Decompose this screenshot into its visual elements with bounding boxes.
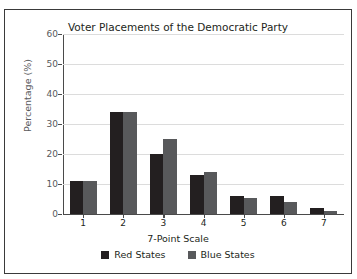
x-axis-tick-mark	[244, 214, 245, 218]
bar-group	[310, 34, 337, 214]
y-axis-tick-mark	[58, 124, 62, 125]
x-axis-tick-label: 6	[281, 218, 287, 228]
x-axis-tick-label: 5	[241, 218, 247, 228]
y-axis-tick-label: 60	[47, 29, 58, 39]
y-axis-tick-mark	[58, 34, 62, 35]
plot-area	[63, 34, 344, 214]
x-axis-tick-mark	[163, 214, 164, 218]
bar-blue-states-7[interactable]	[324, 211, 338, 214]
y-axis-tick-mark	[58, 64, 62, 65]
legend-label: Blue States	[201, 249, 255, 260]
x-axis-tick-mark	[284, 214, 285, 218]
y-axis-tick-mark	[58, 154, 62, 155]
bar-red-states-1[interactable]	[70, 181, 84, 214]
legend-label: Red States	[114, 249, 165, 260]
bar-red-states-4[interactable]	[190, 175, 204, 214]
bar-blue-states-6[interactable]	[284, 202, 298, 214]
y-axis-tick-mark	[58, 214, 62, 215]
x-axis-tick-label: 1	[80, 218, 86, 228]
bar-blue-states-5[interactable]	[244, 198, 258, 215]
figure-frame: Voter Placements of the Democratic Party…	[4, 9, 352, 274]
bar-group	[270, 34, 297, 214]
x-axis-tick-label: 2	[120, 218, 126, 228]
bar-group	[110, 34, 137, 214]
bar-red-states-2[interactable]	[110, 112, 124, 214]
y-axis-tick-label: 30	[47, 119, 58, 129]
bar-group	[190, 34, 217, 214]
y-axis-tick-labels: 0102030405060	[33, 34, 58, 214]
x-axis-title: 7-Point Scale	[5, 233, 351, 244]
x-axis-tick-mark	[204, 214, 205, 218]
bar-group	[70, 34, 97, 214]
bar-red-states-5[interactable]	[230, 196, 244, 214]
bar-blue-states-3[interactable]	[163, 139, 177, 214]
x-axis-tick-label: 7	[321, 218, 327, 228]
x-axis-tick-mark	[123, 214, 124, 218]
y-axis-title: Percentage (%)	[22, 36, 33, 156]
y-axis-tick-mark	[58, 184, 62, 185]
legend-item-red-states[interactable]: Red States	[101, 249, 165, 260]
x-axis-tick-mark	[324, 214, 325, 218]
y-axis-tick-mark	[58, 94, 62, 95]
bar-blue-states-1[interactable]	[83, 181, 97, 214]
bar-group	[150, 34, 177, 214]
legend-item-blue-states[interactable]: Blue States	[188, 249, 255, 260]
bar-red-states-3[interactable]	[150, 154, 164, 214]
x-axis-tick-label: 3	[160, 218, 166, 228]
x-axis-tick-label: 4	[201, 218, 207, 228]
y-axis-tick-label: 10	[47, 179, 58, 189]
y-axis-tick-label: 40	[47, 89, 58, 99]
bar-red-states-7[interactable]	[310, 208, 324, 214]
bar-blue-states-2[interactable]	[123, 112, 137, 214]
bar-group	[230, 34, 257, 214]
figure-caption-strip: that the Parties Are Not Centrist	[0, 0, 357, 9]
y-axis-tick-label: 50	[47, 59, 58, 69]
figure-caption: that the Parties Are Not Centrist	[0, 0, 357, 2]
chart-legend: Red StatesBlue States	[5, 249, 351, 260]
bar-blue-states-4[interactable]	[204, 172, 218, 214]
bar-red-states-6[interactable]	[270, 196, 284, 214]
legend-swatch-icon	[101, 251, 109, 259]
x-axis-tick-mark	[83, 214, 84, 218]
legend-swatch-icon	[188, 251, 196, 259]
y-axis-tick-label: 20	[47, 149, 58, 159]
